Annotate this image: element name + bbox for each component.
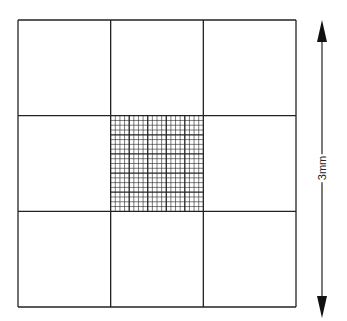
hemocytometer-diagram bbox=[0, 0, 347, 321]
dimension-label: 3mm bbox=[316, 154, 328, 182]
center-counting-grid bbox=[111, 116, 204, 212]
